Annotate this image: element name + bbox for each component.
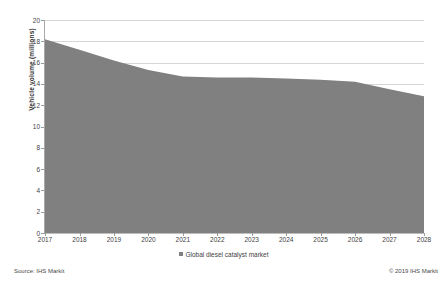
- copyright-note: © 2019 IHS Markit: [389, 268, 438, 274]
- legend-swatch-icon: [179, 252, 183, 256]
- y-tick-label-4: 4: [14, 187, 40, 194]
- source-note: Source: IHS Markit: [14, 268, 64, 274]
- gridline-0: [45, 233, 424, 234]
- x-tick-label-2019: 2019: [94, 236, 134, 244]
- chart-legend: Global diesel catalyst market: [0, 250, 448, 258]
- x-tick-label-2028: 2028: [404, 236, 444, 244]
- x-tick-label-2024: 2024: [266, 236, 306, 244]
- y-tick-label-2: 2: [14, 208, 40, 215]
- legend-item: Global diesel catalyst market: [179, 251, 268, 258]
- x-tick-mark-2028: [424, 233, 425, 236]
- x-tick-label-2027: 2027: [370, 236, 410, 244]
- x-tick-label-2023: 2023: [232, 236, 272, 244]
- y-tick-label-8: 8: [14, 144, 40, 151]
- plot-area: [45, 20, 424, 233]
- x-tick-label-2021: 2021: [163, 236, 203, 244]
- x-tick-label-2017: 2017: [25, 236, 65, 244]
- x-tick-label-2026: 2026: [335, 236, 375, 244]
- legend-label: Global diesel catalyst market: [185, 251, 268, 258]
- y-tick-label-0: 0: [14, 230, 40, 237]
- chart-figure: Vehicle volume (millions) 02468101214161…: [0, 0, 448, 284]
- x-tick-label-2020: 2020: [128, 236, 168, 244]
- y-axis-title: Vehicle volume (millions): [28, 0, 35, 145]
- area-series-global-diesel-catalyst-market: [45, 20, 424, 233]
- x-tick-label-2022: 2022: [197, 236, 237, 244]
- x-tick-label-2025: 2025: [301, 236, 341, 244]
- x-tick-label-2018: 2018: [60, 236, 100, 244]
- y-tick-label-6: 6: [14, 166, 40, 173]
